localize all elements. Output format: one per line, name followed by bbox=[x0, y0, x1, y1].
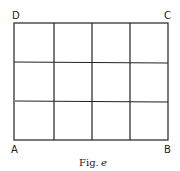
figure-caption-prefix: Fig. bbox=[79, 157, 99, 168]
grid-line-h1 bbox=[14, 62, 168, 63]
corner-label-d: D bbox=[12, 10, 20, 21]
corner-label-c: C bbox=[164, 10, 171, 21]
outer-rectangle bbox=[14, 23, 168, 140]
grid-line-h2 bbox=[15, 101, 168, 102]
grid-diagram: D C A B Fig. e bbox=[0, 0, 180, 171]
corner-label-b: B bbox=[164, 144, 171, 155]
corner-label-a: A bbox=[11, 144, 18, 155]
figure-caption-letter: e bbox=[101, 157, 107, 168]
